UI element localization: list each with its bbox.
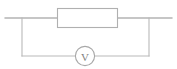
circuit-diagram: V (0, 0, 177, 69)
voltmeter-label: V (81, 51, 89, 63)
resistor-symbol (58, 9, 118, 28)
circuit-diagram-canvas: V (0, 0, 177, 69)
